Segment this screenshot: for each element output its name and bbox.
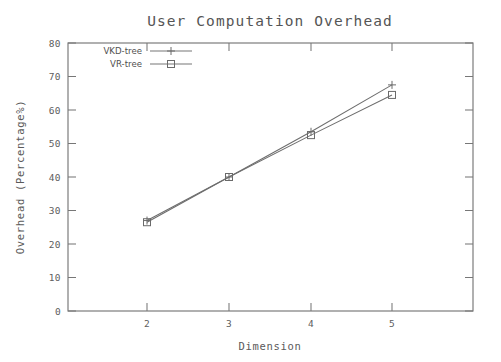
- y-tick-label: 50: [49, 138, 61, 149]
- line-chart-svg: User Computation Overhead 0: [0, 0, 501, 362]
- y-tick-label: 40: [49, 172, 61, 183]
- y-tick-label: 10: [49, 272, 61, 283]
- y-tick-label: 80: [49, 38, 61, 49]
- x-tick-label: 2: [144, 318, 150, 329]
- y-tick-label: 60: [49, 105, 61, 116]
- x-tick-label: 4: [308, 318, 314, 329]
- chart-figure: User Computation Overhead 0: [0, 0, 501, 362]
- y-tick-label: 70: [49, 71, 61, 82]
- x-tick-label: 3: [226, 318, 232, 329]
- x-tick-label: 5: [389, 318, 395, 329]
- legend-label-vr-tree: VR-tree: [110, 59, 142, 69]
- chart-title: User Computation Overhead: [147, 13, 393, 29]
- y-tick-label: 20: [49, 239, 61, 250]
- legend-label-vkd-tree: VKD-tree: [103, 46, 142, 56]
- y-tick-label: 0: [55, 306, 61, 317]
- chart-background: [0, 0, 501, 362]
- y-axis-label: Overhead (Percentage%): [14, 100, 26, 254]
- x-axis-label: Dimension: [238, 340, 301, 352]
- y-tick-labels: 0 10 20 30 40 50 60 70 80: [49, 38, 61, 317]
- y-tick-label: 30: [49, 205, 61, 216]
